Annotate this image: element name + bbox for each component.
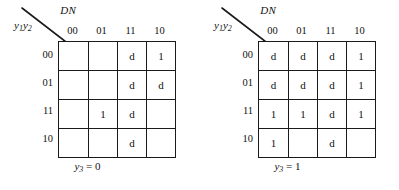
kmap-row: 1 d [259, 128, 375, 157]
column-header-01: 01 [87, 24, 116, 38]
kmap-cell[interactable]: 1 [346, 100, 375, 128]
row-headers: 00 01 11 10 [236, 41, 256, 153]
kmap-figure: DN y1y2 00 01 11 10 00 01 11 10 d 1 [0, 0, 399, 190]
kmap-cell[interactable]: d [317, 129, 346, 157]
kmap-cell[interactable] [59, 100, 88, 128]
kmap-cell[interactable]: 1 [88, 100, 117, 128]
column-header-10: 10 [145, 24, 174, 38]
kmap-cell[interactable]: d [259, 42, 288, 70]
kmap-cell[interactable]: d [317, 71, 346, 99]
kmap-cell[interactable] [88, 71, 117, 99]
kmap-cell[interactable] [88, 42, 117, 70]
column-header-11: 11 [316, 24, 345, 38]
column-header-01: 01 [287, 24, 316, 38]
kmap-row: d d d 1 [259, 70, 375, 99]
kmap-grid: d d d 1 d d d 1 1 1 d 1 1 d [258, 41, 376, 158]
kmap-cell[interactable]: d [288, 42, 317, 70]
kmap-row: d 1 [59, 42, 175, 70]
row-headers: 00 01 11 10 [36, 41, 56, 153]
kmap-cell[interactable]: d [117, 100, 146, 128]
kmap-cell[interactable]: d [117, 129, 146, 157]
kmap-row: 1 d [59, 99, 175, 128]
row-header-10: 10 [36, 125, 56, 153]
kmap-caption: y3 = 0 [0, 160, 175, 174]
kmap-cell[interactable]: d [288, 71, 317, 99]
kmap-cell[interactable] [59, 42, 88, 70]
kmap-row: d [59, 128, 175, 157]
kmap-cell[interactable]: 1 [288, 100, 317, 128]
column-variable-label: DN [60, 4, 76, 16]
kmap-cell[interactable] [88, 129, 117, 157]
kmap-cell[interactable] [59, 71, 88, 99]
column-header-10: 10 [345, 24, 374, 38]
kmap-grid: d 1 d d 1 d d [58, 41, 176, 158]
kmap-cell[interactable]: d [117, 42, 146, 70]
kmap-cell[interactable]: 1 [346, 42, 375, 70]
kmap-cell[interactable]: d [146, 71, 175, 99]
row-header-10: 10 [236, 125, 256, 153]
kmap-cell[interactable] [59, 129, 88, 157]
row-header-11: 11 [236, 97, 256, 125]
kmap-cell[interactable]: d [317, 42, 346, 70]
kmap-cell[interactable] [146, 129, 175, 157]
kmap-row: d d d 1 [259, 42, 375, 70]
row-variable-label: y1y2 [14, 19, 32, 33]
kmap-cell[interactable] [146, 100, 175, 128]
kmap-cell[interactable]: d [259, 71, 288, 99]
kmap-cell[interactable]: 1 [259, 100, 288, 128]
kmap-cell[interactable]: d [317, 100, 346, 128]
row-variable-label: y1y2 [214, 19, 232, 33]
kmap-cell[interactable] [288, 129, 317, 157]
column-header-00: 00 [258, 24, 287, 38]
row-header-00: 00 [236, 41, 256, 69]
kmap-cell[interactable] [346, 129, 375, 157]
kmap-cell[interactable]: 1 [259, 129, 288, 157]
row-header-00: 00 [36, 41, 56, 69]
row-header-01: 01 [236, 69, 256, 97]
kmap-row: d d [59, 70, 175, 99]
column-headers: 00 01 11 10 [58, 24, 174, 38]
column-variable-label: DN [260, 4, 276, 16]
column-header-00: 00 [58, 24, 87, 38]
row-header-11: 11 [36, 97, 56, 125]
kmap-row: 1 1 d 1 [259, 99, 375, 128]
row-header-01: 01 [36, 69, 56, 97]
kmap-caption: y3 = 1 [200, 160, 375, 174]
kmap-cell[interactable]: 1 [346, 71, 375, 99]
column-header-11: 11 [116, 24, 145, 38]
column-headers: 00 01 11 10 [258, 24, 374, 38]
kmap-cell[interactable]: d [117, 71, 146, 99]
kmap-cell[interactable]: 1 [146, 42, 175, 70]
